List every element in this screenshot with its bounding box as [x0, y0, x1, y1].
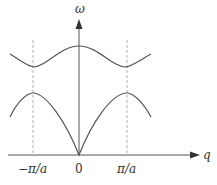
- y-axis-label: ω: [75, 2, 85, 16]
- x-axis-arrow-icon: [190, 152, 200, 159]
- x-tick-neg-pi-over-a: −π/a: [18, 162, 47, 176]
- y-axis-arrow-icon: [76, 19, 83, 29]
- optical-branch-curve: [10, 46, 151, 67]
- acoustic-branch-curve: [10, 93, 151, 155]
- x-tick-zero: 0: [75, 162, 83, 176]
- x-tick-pi-over-a: π/a: [116, 162, 136, 176]
- dispersion-diagram: ω q −π/a 0 π/a: [0, 0, 217, 185]
- x-axis-label: q: [203, 148, 211, 162]
